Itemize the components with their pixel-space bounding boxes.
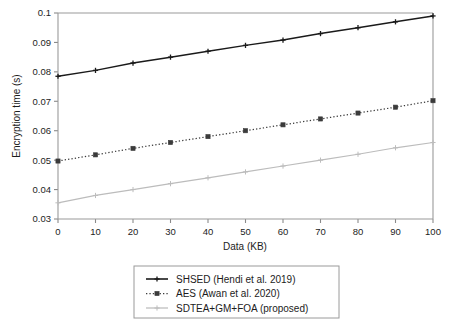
x-axis-tick-label: 60 — [278, 226, 289, 237]
legend: SHSED (Hendi et al. 2019)AES (Awan et al… — [134, 266, 339, 318]
legend-label-3: SDTEA+GM+FOA (proposed) — [176, 303, 308, 314]
x-axis-title: Data (KB) — [223, 241, 267, 252]
legend-label-2: AES (Awan et al. 2020) — [176, 288, 280, 299]
y-axis-tick-label: 0.05 — [33, 155, 52, 166]
chart-svg: 0.030.040.050.060.070.080.090.1 01020304… — [0, 0, 454, 331]
data-point-marker — [56, 159, 60, 163]
x-axis-tick-label: 40 — [203, 226, 214, 237]
x-axis-tick-label: 0 — [55, 226, 60, 237]
y-axis-tick-label: 0.03 — [33, 213, 52, 224]
x-axis-tick-label: 30 — [165, 226, 176, 237]
data-point-marker — [356, 111, 360, 115]
data-point-marker — [206, 135, 210, 139]
data-point-marker — [243, 129, 247, 133]
x-axis-tick-label: 80 — [353, 226, 364, 237]
y-axis-tick-label: 0.09 — [33, 37, 52, 48]
y-axis-tick-label: 0.06 — [33, 125, 52, 136]
data-point-marker — [281, 123, 285, 127]
x-axis-tick-label: 100 — [425, 226, 441, 237]
x-axis-tick-label: 10 — [90, 226, 101, 237]
x-axis-tick-label: 50 — [240, 226, 251, 237]
data-point-marker — [131, 146, 135, 150]
y-axis-title: Encryption time (s) — [11, 74, 22, 157]
data-point-marker — [93, 153, 97, 157]
y-axis-tick-label: 0.07 — [33, 96, 52, 107]
y-axis-tick-label: 0.04 — [33, 184, 52, 195]
data-point-marker — [168, 140, 172, 144]
data-point-marker — [318, 117, 322, 121]
data-point-marker — [155, 291, 159, 295]
x-axis-tick-label: 70 — [315, 226, 326, 237]
x-axis-tick-label: 20 — [128, 226, 139, 237]
legend-label-1: SHSED (Hendi et al. 2019) — [176, 274, 296, 285]
y-axis-tick-label: 0.1 — [38, 7, 51, 18]
y-axis-tick-label: 0.08 — [33, 66, 52, 77]
data-point-marker — [431, 99, 435, 103]
encryption-time-line-chart: 0.030.040.050.060.070.080.090.1 01020304… — [0, 0, 454, 331]
data-point-marker — [393, 105, 397, 109]
x-axis-tick-label: 90 — [390, 226, 401, 237]
